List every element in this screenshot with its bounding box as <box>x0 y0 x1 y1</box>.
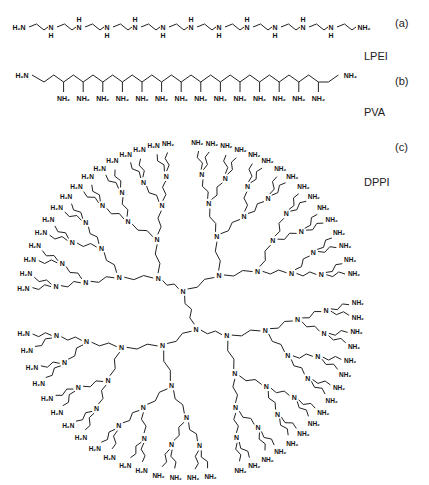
branch-nitrogen: N <box>119 189 124 196</box>
terminal-bond <box>197 151 202 169</box>
branch-nitrogen: N <box>156 275 161 282</box>
branch-bond <box>158 211 162 235</box>
branch-bond <box>296 272 316 276</box>
terminal-amine: NH₂ <box>344 357 356 364</box>
amine-end-right: NH₂ <box>344 72 357 79</box>
terminal-amine: NH₂ <box>352 299 364 306</box>
ethylene-bond <box>225 24 244 30</box>
branch-bond <box>61 337 81 341</box>
pendant-amine: NH₂ <box>273 95 286 102</box>
nh-hydrogen: H <box>300 16 305 23</box>
core-nitrogen: N <box>180 288 185 295</box>
pendant-amine: NH₂ <box>253 95 266 102</box>
branch-bond <box>221 219 240 233</box>
branch-bond <box>210 209 216 232</box>
branch-nitrogen: N <box>216 272 221 279</box>
terminal-bond <box>203 152 209 170</box>
branch-bond <box>244 192 248 212</box>
backbone-bond <box>32 75 338 82</box>
terminal-bond <box>261 431 274 445</box>
branch-nitrogen: N <box>232 370 237 377</box>
branch-bond <box>248 202 264 214</box>
terminal-bond <box>251 168 262 183</box>
branch-nitrogen: N <box>270 237 275 244</box>
terminal-bond <box>313 379 331 384</box>
terminal-amine: H₂N <box>35 229 48 236</box>
terminal-bond <box>162 449 169 466</box>
terminal-amine: NH₂ <box>261 157 273 164</box>
terminal-bond <box>32 285 51 290</box>
terminal-amine: H₂N <box>82 173 95 180</box>
branch-nitrogen: N <box>141 179 146 186</box>
terminal-bond <box>39 260 58 264</box>
branch-bond <box>147 389 167 405</box>
branch-nitrogen: N <box>54 332 59 339</box>
terminal-bond <box>35 338 52 346</box>
terminal-amine: NH₂ <box>352 314 364 321</box>
pendant-amine: NH₂ <box>194 95 207 102</box>
ethylene-bond <box>169 24 188 30</box>
terminal-amine: NH₂ <box>317 409 329 416</box>
branch-bond <box>293 354 313 358</box>
ethylene-bond <box>85 24 104 30</box>
nh-hydrogen: H <box>328 32 333 39</box>
branch-bond <box>61 282 81 287</box>
amine-end-right: NH₂ <box>357 24 370 31</box>
branch-nitrogen: N <box>233 404 238 411</box>
terminal-amine: NH₂ <box>339 242 351 249</box>
branch-bond <box>77 243 97 247</box>
branch-bond <box>163 181 166 201</box>
terminal-bond <box>270 177 277 194</box>
branch-bond <box>239 376 261 385</box>
terminal-amine: NH₂ <box>220 142 232 149</box>
terminal-amine: H₂N <box>62 422 75 429</box>
nh-nitrogen: N <box>48 24 53 31</box>
terminal-amine: H₂N <box>89 445 102 452</box>
branch-nitrogen: N <box>126 218 131 225</box>
terminal-bond <box>46 366 61 378</box>
pendant-amine: NH₂ <box>175 95 188 102</box>
branch-nitrogen: N <box>169 441 174 448</box>
branch-nitrogen: N <box>160 202 165 209</box>
branch-bond <box>224 271 253 276</box>
branch-nitrogen: N <box>142 435 147 442</box>
terminal-amine: NH₂ <box>274 165 286 172</box>
branch-bond <box>107 208 124 218</box>
terminal-amine: NH₂ <box>333 229 345 236</box>
nh-nitrogen: N <box>188 24 193 31</box>
terminal-bond <box>85 413 94 430</box>
branch-nitrogen: N <box>141 404 146 411</box>
branch-nitrogen: N <box>60 260 65 267</box>
branch-nitrogen: N <box>116 422 121 429</box>
terminal-bond <box>259 433 265 451</box>
branch-nitrogen: N <box>119 344 124 351</box>
branch-bond <box>174 422 184 440</box>
terminal-amine: H₂N <box>60 193 73 200</box>
branch-nitrogen: N <box>255 268 260 275</box>
terminal-amine: NH₂ <box>234 467 246 474</box>
terminal-bond <box>299 400 316 408</box>
nh-nitrogen: N <box>328 24 333 31</box>
branch-bond <box>141 412 146 433</box>
nh-hydrogen: H <box>216 32 221 39</box>
terminal-bond <box>318 247 336 253</box>
branch-bond <box>127 344 158 349</box>
branch-nitrogen: N <box>83 279 88 286</box>
core-bond <box>185 296 195 325</box>
terminal-bond <box>50 235 68 240</box>
terminal-amine: NH₂ <box>162 140 174 147</box>
nh-hydrogen: H <box>104 32 109 39</box>
terminal-amine: NH₂ <box>350 328 362 335</box>
terminal-bond <box>115 170 121 188</box>
terminal-amine: NH₂ <box>326 397 338 404</box>
branch-bond <box>275 218 284 236</box>
terminal-amine: NH₂ <box>333 384 345 391</box>
terminal-bond <box>157 154 164 171</box>
nh-hydrogen: H <box>244 16 249 23</box>
pendant-amine: NH₂ <box>155 95 168 102</box>
nh-nitrogen: N <box>272 24 277 31</box>
branch-bond <box>271 388 290 395</box>
terminal-amine: H₂N <box>17 330 30 337</box>
terminal-bond <box>322 359 338 369</box>
branch-nitrogen: N <box>117 274 122 281</box>
